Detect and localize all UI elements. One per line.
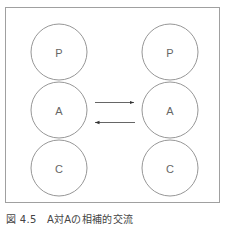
left-circle-child: C	[31, 140, 87, 196]
left-circle-adult-label: A	[55, 105, 63, 117]
right-circle-parent: P	[142, 24, 198, 80]
right-circle-adult: A	[142, 82, 198, 138]
left-column: P A C	[31, 24, 87, 196]
right-circle-child: C	[142, 140, 198, 196]
ego-state-diagram: P A C P A C	[0, 0, 226, 227]
right-column: P A C	[142, 24, 198, 196]
right-circle-child-label: C	[166, 163, 174, 175]
right-circle-parent-label: P	[166, 47, 173, 59]
left-circle-parent: P	[31, 24, 87, 80]
left-circle-adult: A	[31, 82, 87, 138]
figure-caption: 図 4.5 A対Aの相補的交流	[6, 211, 133, 226]
right-circle-adult-label: A	[166, 105, 174, 117]
left-circle-parent-label: P	[55, 47, 62, 59]
diagram-border	[6, 8, 220, 203]
left-circle-child-label: C	[55, 163, 63, 175]
